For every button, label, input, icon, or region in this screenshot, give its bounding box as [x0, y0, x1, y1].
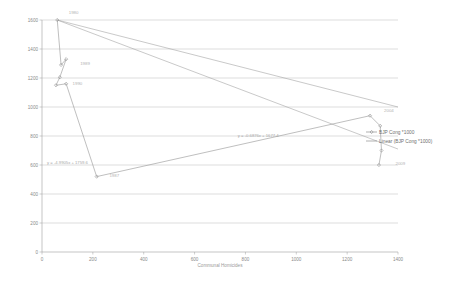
legend-label-0: BJP Cong *1000 [379, 130, 415, 135]
y-tick-label: 1000 [28, 105, 39, 110]
x-tick-label: 600 [191, 257, 199, 262]
y-tick-label: 600 [30, 163, 38, 168]
chart-svg: 02004006008001000120014001600 0200400600… [0, 0, 462, 282]
data-point-label: 1990 [73, 81, 83, 86]
x-tick-label: 1000 [291, 257, 302, 262]
data-point-label: 1989 [80, 61, 90, 66]
equation-text: y = -4.9905x + 1759.6 [47, 160, 88, 165]
y-tick-label: 0 [35, 250, 38, 255]
x-axis-title: Communal Homicides [198, 263, 244, 268]
x-tick-label: 1200 [342, 257, 353, 262]
legend-label-1: Linear (BJP Cong *1000) [379, 139, 433, 144]
x-tick-label: 400 [140, 257, 148, 262]
data-point-label: 2004 [384, 108, 394, 113]
x-tick-label: 1400 [393, 257, 404, 262]
y-tick-label: 800 [30, 134, 38, 139]
x-tick-label: 0 [41, 257, 44, 262]
data-point-label: 2009 [395, 161, 405, 166]
y-tick-label: 1600 [28, 18, 39, 23]
x-tick-label: 800 [242, 257, 250, 262]
x-tick-label: 200 [89, 257, 97, 262]
y-tick-label: 400 [30, 192, 38, 197]
chart-container: 02004006008001000120014001600 0200400600… [0, 0, 462, 282]
data-point-label: 1980 [69, 10, 79, 15]
y-tick-label: 1400 [28, 47, 39, 52]
equation-text: y = -0.6876x + 1677.4 [238, 133, 279, 138]
data-point-label: 1987 [109, 173, 119, 178]
y-tick-label: 200 [30, 221, 38, 226]
y-tick-label: 1200 [28, 76, 39, 81]
